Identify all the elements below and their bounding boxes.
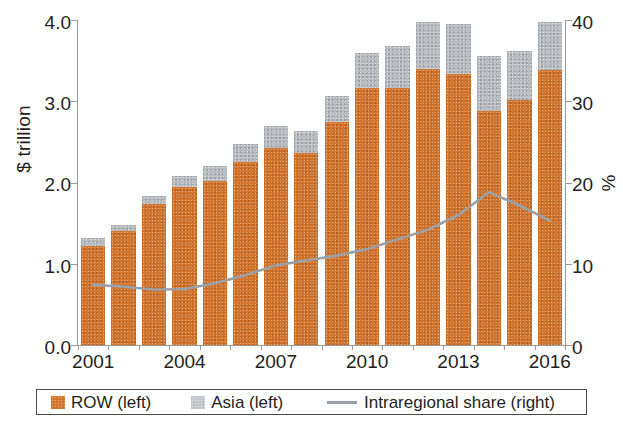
bar-segment-asia bbox=[507, 51, 531, 100]
bar-stack bbox=[507, 51, 531, 345]
bar-segment-row bbox=[111, 231, 135, 345]
bar-stack bbox=[264, 126, 288, 345]
x-tick-mark bbox=[535, 345, 536, 350]
x-tick-mark bbox=[322, 345, 323, 350]
bar-stack bbox=[416, 22, 440, 345]
x-tick-mark bbox=[474, 345, 475, 350]
bar-segment-row bbox=[81, 246, 105, 345]
bar-segment-asia bbox=[325, 96, 349, 122]
y-tick-label-right-20: 20 bbox=[572, 175, 616, 194]
y-tick-mark-right bbox=[566, 183, 572, 184]
x-tick-mark bbox=[565, 345, 566, 350]
bar-segment-asia bbox=[81, 238, 105, 246]
x-tick-mark bbox=[443, 345, 444, 350]
bar-segment-asia bbox=[172, 176, 196, 187]
y-tick-label-left-4: 4.0 bbox=[11, 13, 71, 32]
y-tick-label-right-30: 30 bbox=[572, 94, 616, 113]
legend-item-asia: Asia (left) bbox=[191, 394, 283, 411]
y-tick-label-right-10: 10 bbox=[572, 257, 616, 276]
bar-segment-asia bbox=[233, 144, 257, 162]
x-tick-label-2007: 2007 bbox=[243, 352, 309, 371]
bar-stack bbox=[111, 225, 135, 345]
bar-segment-row bbox=[264, 148, 288, 345]
y-axis-left-spine bbox=[77, 20, 78, 345]
bar-segment-row bbox=[172, 187, 196, 345]
bar-stack bbox=[538, 22, 562, 345]
bar-segment-asia bbox=[538, 22, 562, 71]
bar-stack bbox=[477, 56, 501, 345]
bar-segment-asia bbox=[416, 22, 440, 69]
x-tick-mark bbox=[230, 345, 231, 350]
x-tick-mark bbox=[413, 345, 414, 350]
plot-area bbox=[78, 20, 565, 345]
bar-stack bbox=[142, 196, 166, 345]
y-tick-label-right-40: 40 bbox=[572, 13, 616, 32]
bar-stack bbox=[355, 53, 379, 346]
bar-segment-asia bbox=[446, 24, 470, 74]
y-tick-label-left-1: 1.0 bbox=[11, 257, 71, 276]
legend-label-row: ROW (left) bbox=[71, 394, 151, 411]
bar-segment-row bbox=[325, 122, 349, 345]
bar-stack bbox=[81, 238, 105, 345]
x-tick-label-2001: 2001 bbox=[60, 352, 126, 371]
x-tick-label-2004: 2004 bbox=[152, 352, 218, 371]
bar-segment-asia bbox=[264, 126, 288, 148]
x-tick-label-2016: 2016 bbox=[517, 352, 583, 371]
bar-segment-row bbox=[446, 74, 470, 345]
bar-segment-asia bbox=[477, 56, 501, 111]
legend-item-row: ROW (left) bbox=[51, 394, 151, 411]
bar-segment-asia bbox=[111, 225, 135, 232]
bar-segment-row bbox=[355, 88, 379, 345]
bar-segment-asia bbox=[142, 196, 166, 204]
x-tick-mark bbox=[169, 345, 170, 350]
x-tick-mark bbox=[261, 345, 262, 350]
bar-segment-row bbox=[203, 181, 227, 345]
legend-swatch-row-icon bbox=[51, 396, 65, 409]
bar-segment-row bbox=[233, 162, 257, 345]
x-tick-mark bbox=[139, 345, 140, 350]
y-tick-mark-left bbox=[71, 101, 77, 102]
x-tick-label-2010: 2010 bbox=[334, 352, 400, 371]
bar-segment-asia bbox=[385, 46, 409, 88]
bar-segment-row bbox=[507, 100, 531, 345]
bar-stack bbox=[325, 96, 349, 345]
y-tick-label-left-3: 3.0 bbox=[11, 94, 71, 113]
legend-swatch-line-icon bbox=[327, 401, 357, 404]
bar-stack bbox=[233, 144, 257, 345]
bar-segment-row bbox=[416, 69, 440, 345]
bar-segment-asia bbox=[294, 131, 318, 154]
y-tick-mark-left bbox=[71, 20, 77, 21]
bar-segment-asia bbox=[355, 53, 379, 89]
bar-segment-row bbox=[477, 111, 501, 345]
x-tick-mark bbox=[352, 345, 353, 350]
bar-stack bbox=[385, 46, 409, 345]
y-tick-mark-right bbox=[566, 264, 572, 265]
x-tick-mark bbox=[291, 345, 292, 350]
bar-stack bbox=[203, 166, 227, 345]
bar-stack bbox=[172, 176, 196, 345]
x-tick-mark bbox=[78, 345, 79, 350]
bar-segment-row bbox=[538, 70, 562, 345]
legend-label-intraregional-share: Intraregional share (right) bbox=[364, 394, 555, 411]
bar-segment-row bbox=[385, 88, 409, 345]
y-tick-mark-left bbox=[71, 264, 77, 265]
y-tick-mark-left bbox=[71, 345, 77, 346]
bar-segment-row bbox=[142, 204, 166, 345]
y-tick-mark-left bbox=[71, 183, 77, 184]
chart-legend: ROW (left) Asia (left) Intraregional sha… bbox=[36, 389, 587, 415]
legend-item-intraregional-share: Intraregional share (right) bbox=[327, 394, 555, 411]
chart-figure: $ trillion % 4.0 3.0 2.0 1.0 0.0 40 30 2… bbox=[0, 0, 623, 421]
x-tick-mark bbox=[504, 345, 505, 350]
x-tick-label-2013: 2013 bbox=[425, 352, 491, 371]
bar-segment-row bbox=[294, 153, 318, 345]
y-tick-mark-right bbox=[566, 345, 572, 346]
bar-segment-asia bbox=[203, 166, 227, 181]
y-tick-mark-right bbox=[566, 101, 572, 102]
y-tick-label-left-2: 2.0 bbox=[11, 175, 71, 194]
legend-swatch-asia-icon bbox=[191, 396, 205, 409]
x-tick-mark bbox=[108, 345, 109, 350]
bar-stack bbox=[446, 24, 470, 345]
y-tick-mark-right bbox=[566, 20, 572, 21]
legend-label-asia: Asia (left) bbox=[211, 394, 283, 411]
x-tick-mark bbox=[382, 345, 383, 350]
